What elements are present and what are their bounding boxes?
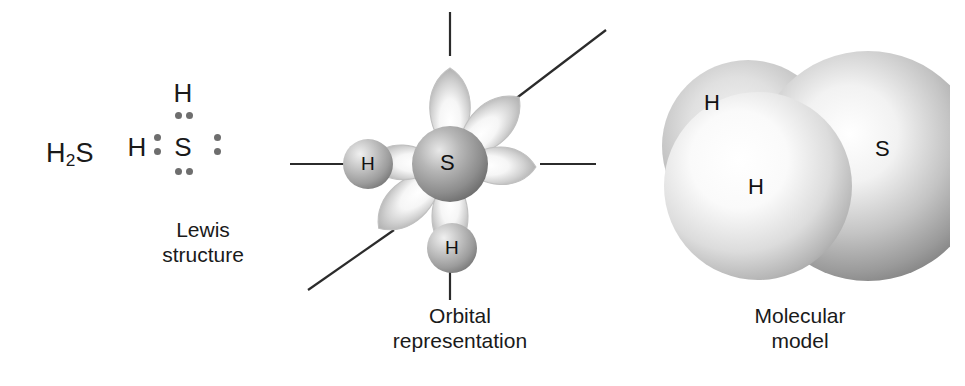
lewis-dot-bottom-right xyxy=(186,168,193,175)
lewis-structure-diagram: H H S xyxy=(130,78,280,203)
lewis-dot-right-upper xyxy=(214,134,221,141)
lewis-dot-bottom-left xyxy=(175,168,182,175)
formula-element-s: S xyxy=(76,138,94,168)
lewis-hydrogen-top: H xyxy=(170,80,196,106)
formula-element-h: H xyxy=(46,138,66,168)
formula-subscript: 2 xyxy=(66,150,76,170)
h2s-molecule-figure: H2S H H S Lewis structure xyxy=(0,0,965,386)
lewis-dot-left-upper xyxy=(154,134,161,141)
lewis-structure-caption: Lewis structure xyxy=(113,218,293,268)
lewis-dot-left-lower xyxy=(154,148,161,155)
orbital-hydrogen-bottom-label: H xyxy=(445,238,459,257)
model-hydrogen-front-label: H xyxy=(748,176,764,198)
orbital-axis-line-upper-right-diagonal xyxy=(514,30,606,100)
orbital-axis-line-lower-left-diagonal xyxy=(308,230,394,290)
chemical-formula: H2S xyxy=(46,138,94,171)
orbital-representation-caption: Orbital representation xyxy=(340,304,580,354)
lewis-dot-top-left xyxy=(175,112,182,119)
molecular-model-caption: Molecular model xyxy=(700,304,900,354)
model-sulfur-label: S xyxy=(875,138,890,160)
molecular-model-diagram: H H S xyxy=(630,38,950,300)
lewis-sulfur-center: S xyxy=(170,134,196,160)
orbital-sulfur-label: S xyxy=(440,152,455,174)
orbital-representation-diagram: S H H xyxy=(290,8,610,300)
lewis-hydrogen-left: H xyxy=(124,134,150,160)
molecular-model-svg xyxy=(630,38,950,300)
lewis-dot-top-right xyxy=(186,112,193,119)
model-hydrogen-back-label: H xyxy=(704,92,720,114)
lewis-dot-right-lower xyxy=(214,148,221,155)
orbital-hydrogen-left-label: H xyxy=(361,154,375,173)
